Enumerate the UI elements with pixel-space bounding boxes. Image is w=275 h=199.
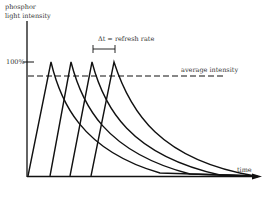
pulse-1 (28, 62, 255, 176)
y-axis-label-line1: phosphor (5, 4, 51, 11)
delta-t-bracket (93, 45, 115, 53)
average-intensity-label: average intensity (181, 67, 238, 74)
x-axis-label: time (237, 167, 252, 174)
y-axis-label: phosphor light intensity (5, 4, 51, 19)
y-axis-label-line2: light intensity (5, 13, 51, 20)
tick-100-label: 100% (6, 59, 25, 66)
diagram-canvas (0, 0, 275, 199)
pulse-4 (91, 62, 255, 176)
pulse-curves (28, 62, 255, 176)
delta-t-label: Δt = refresh rate (98, 36, 154, 43)
